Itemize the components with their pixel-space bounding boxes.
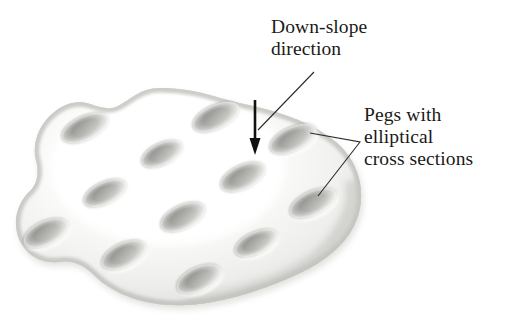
pegs-label-line1: Pegs with	[364, 104, 473, 126]
down-slope-label: Down-slope direction	[271, 16, 367, 60]
down-slope-label-line2: direction	[271, 38, 367, 60]
pegs-label: Pegs with elliptical cross sections	[364, 104, 473, 170]
pegs-label-line3: cross sections	[364, 148, 473, 170]
pegs-label-line2: elliptical	[364, 126, 473, 148]
down-slope-label-line1: Down-slope	[271, 16, 367, 38]
